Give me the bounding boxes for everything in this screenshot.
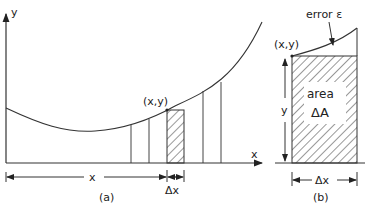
panel-b: area ΔA error ε (x,y) y Δx (b)	[274, 8, 365, 204]
height-label: y	[281, 104, 288, 117]
x-distance-label: x	[89, 171, 96, 184]
area-label: area	[307, 87, 334, 101]
curve-segment	[292, 28, 357, 56]
point-marker	[165, 108, 168, 111]
x-axis-label: x	[251, 148, 258, 161]
integration-diagram: y x (x,y) x Δx (a) area ΔA error ε (x,y)…	[0, 0, 367, 206]
error-pointer	[329, 22, 333, 45]
point-label-b: (x,y)	[274, 38, 299, 51]
curve	[6, 22, 262, 131]
point-label: (x,y)	[143, 95, 168, 108]
delta-a-label: ΔA	[311, 105, 329, 120]
caption-a: (a)	[99, 191, 114, 204]
y-axis-label: y	[11, 6, 18, 19]
delta-x-label-b: Δx	[315, 174, 330, 187]
panel-a: y x (x,y) x Δx (a)	[6, 6, 262, 204]
delta-x-label: Δx	[165, 184, 180, 197]
error-label: error ε	[306, 8, 342, 21]
caption-b: (b)	[313, 191, 329, 204]
hatched-strip	[167, 110, 184, 163]
